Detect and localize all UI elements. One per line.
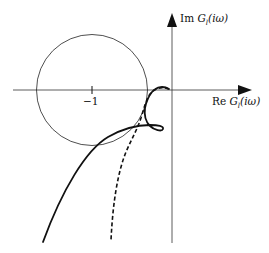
imag-label-arg: (iω) xyxy=(208,12,228,24)
real-label-prefix: Re xyxy=(212,95,229,107)
imag-axis-label: Im Gl(iω) xyxy=(180,12,228,27)
imag-axis-arrow-icon xyxy=(167,13,177,27)
solid-curve xyxy=(43,87,169,242)
real-label-arg: (iω) xyxy=(240,95,260,107)
real-axis-arrow-icon xyxy=(238,85,252,95)
tick-label-minus-one: −1 xyxy=(83,95,98,107)
imag-label-prefix: Im xyxy=(180,12,197,24)
real-label-func: G xyxy=(229,95,237,107)
dashed-curve xyxy=(111,88,169,240)
imag-label-func: G xyxy=(197,12,205,24)
nyquist-diagram xyxy=(0,0,269,253)
real-axis-label: Re Gl(iω) xyxy=(212,95,260,110)
